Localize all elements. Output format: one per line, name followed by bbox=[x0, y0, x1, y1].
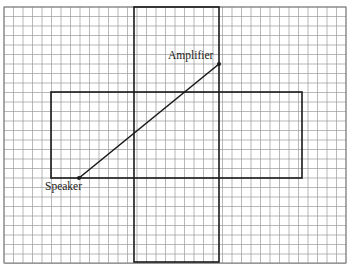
horizontal-rectangle bbox=[51, 92, 302, 178]
speaker-label: Speaker bbox=[45, 180, 82, 192]
grid-diagram bbox=[0, 0, 352, 266]
amplifier-point bbox=[217, 62, 221, 66]
diagram-canvas: Amplifier Speaker bbox=[0, 0, 352, 266]
amplifier-label: Amplifier bbox=[168, 49, 213, 61]
